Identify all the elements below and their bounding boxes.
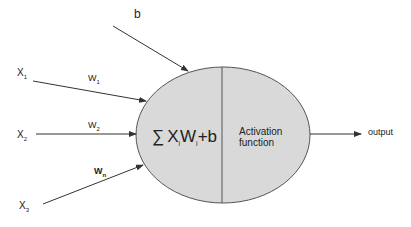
activation-label-line1: Activation <box>239 126 282 137</box>
input-2-label: X2 <box>17 129 28 142</box>
input-3-label: X3 <box>19 200 30 213</box>
input-3-arrow <box>43 165 143 204</box>
output-label: output <box>368 127 394 137</box>
weight-3-label: Wn <box>94 166 107 178</box>
input-1-label: X1 <box>17 67 28 80</box>
neuron-diagram: b X1 W1 X2 W2 X3 Wn ∑XiWi+b Activation f… <box>0 0 411 227</box>
summation-formula: ∑XiWi+b <box>152 127 217 147</box>
weight-2-label: W2 <box>88 120 101 132</box>
bias-label: b <box>134 7 141 21</box>
weight-1-label: W1 <box>88 73 101 85</box>
activation-label-line2: function <box>239 137 274 148</box>
bias-arrow <box>113 26 188 71</box>
input-1-arrow <box>33 81 146 101</box>
